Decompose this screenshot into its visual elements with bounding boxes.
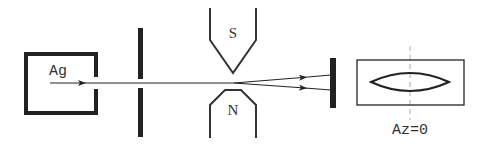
slit-lower-plate bbox=[138, 88, 143, 137]
oven-label: Ag bbox=[49, 63, 67, 80]
south-pole-label: S bbox=[229, 25, 237, 41]
upper-beam-arrow-icon bbox=[234, 77, 305, 83]
screen-view: Az=0 bbox=[357, 46, 464, 139]
slit-upper-plate bbox=[138, 28, 143, 79]
magnet-south-pole: S bbox=[210, 8, 256, 73]
upper-beam bbox=[305, 75, 331, 77]
lower-beam bbox=[305, 88, 331, 90]
axis-label: Az=0 bbox=[392, 122, 428, 139]
lower-beam-arrow-icon bbox=[234, 83, 305, 88]
detector-plate bbox=[330, 58, 336, 108]
stern-gerlach-diagram: Ag S N Az=0 bbox=[0, 0, 487, 144]
split-beams bbox=[234, 75, 331, 90]
north-pole-label: N bbox=[228, 102, 239, 118]
magnet-north-pole: N bbox=[210, 90, 256, 138]
